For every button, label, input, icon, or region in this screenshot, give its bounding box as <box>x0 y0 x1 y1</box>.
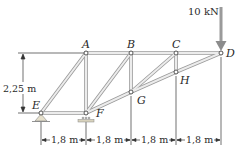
joint-g <box>129 90 133 94</box>
roller-support-f <box>78 117 94 122</box>
node-label-b: B <box>127 39 135 50</box>
span-dimension-label-3: 1,8 m <box>140 135 169 145</box>
node-label-c: C <box>172 39 180 50</box>
joint-f <box>84 111 88 115</box>
height-dimension-label: 2,25 m <box>2 84 37 94</box>
node-label-d: D <box>226 48 235 59</box>
node-label-e: E <box>32 100 40 111</box>
joint-c <box>174 51 178 55</box>
load-label: 10 kN <box>188 7 219 17</box>
joint-d <box>219 51 223 55</box>
node-label-a: A <box>82 39 90 50</box>
span-dimension-label-4: 1,8 m <box>185 135 214 145</box>
node-label-h: H <box>180 75 190 86</box>
node-label-g: G <box>137 95 146 106</box>
span-dimension-label-1: 1,8 m <box>50 135 79 145</box>
truss-diagram <box>0 0 237 152</box>
joint-b <box>129 51 133 55</box>
joint-h <box>174 70 178 74</box>
joint-a <box>84 51 88 55</box>
node-label-f: F <box>96 108 104 119</box>
span-dimension-label-2: 1,8 m <box>95 135 124 145</box>
